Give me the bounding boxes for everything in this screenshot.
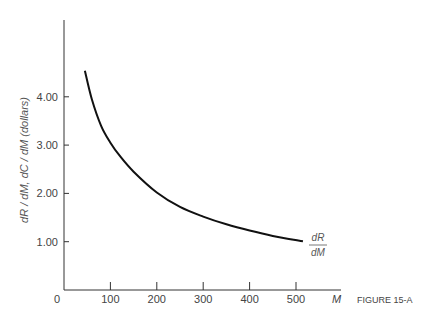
x-tick-label: 300 — [194, 293, 212, 305]
chart: 1.002.003.004.00 0100200300400500 dR / d… — [0, 0, 422, 335]
x-tick-label: 500 — [287, 293, 305, 305]
curve-label-numerator: dR — [312, 232, 325, 243]
axes — [64, 20, 341, 290]
curve-label: dR dM — [309, 232, 327, 258]
figure-caption: FIGURE 15-A — [357, 295, 413, 305]
dr-dm-curve — [85, 71, 303, 241]
x-axis-label: M — [332, 293, 342, 305]
x-tick-label: 100 — [101, 293, 119, 305]
x-tick-label: 0 — [54, 293, 60, 305]
curve-label-denominator: dM — [311, 247, 326, 258]
y-tick-label: 2.00 — [37, 187, 58, 199]
x-tick-label: 400 — [240, 293, 258, 305]
y-axis-label: dR / dM, dC / dM (dollars) — [18, 97, 30, 223]
y-tick-label: 3.00 — [37, 139, 58, 151]
x-tick-label: 200 — [148, 293, 166, 305]
y-tick-label: 1.00 — [37, 236, 58, 248]
y-tick-label: 4.00 — [37, 91, 58, 103]
x-ticks: 0100200300400500 — [54, 282, 305, 305]
